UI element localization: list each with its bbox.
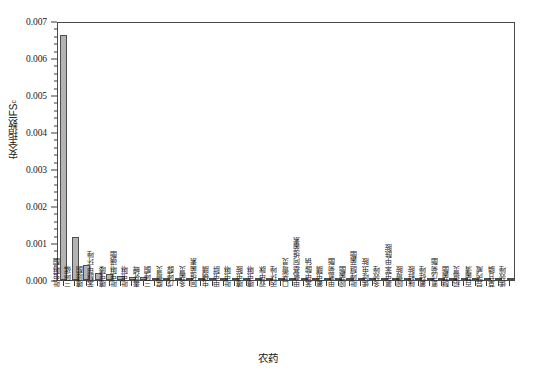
x-tick-label: 噻虫啉 <box>247 265 257 287</box>
x-tick-label: 虫螨腈 <box>202 265 212 287</box>
x-tick-label: 甲氨基阿维菌素 <box>293 237 303 287</box>
x-tick-label: 吡虫啉酮 <box>53 258 63 287</box>
x-tick-label: 多菌灵 <box>179 265 189 287</box>
bars-layer <box>58 23 514 280</box>
x-tick-label: 苯醚甲环唑 <box>87 251 97 287</box>
x-tick-label: 口恶霉灵 <box>282 258 292 287</box>
x-tick-label: 双甲脒 <box>259 265 269 287</box>
y-tick-label: 0.000 <box>26 276 47 286</box>
y-tick-label: 0.003 <box>26 165 47 175</box>
x-tick-label: 甲虫肼 <box>213 265 223 287</box>
x-tick-label: 腐霉灵 <box>156 265 166 287</box>
x-tick-label: 吡虫啉 <box>121 265 131 287</box>
x-tick-label: 草甘膦 <box>488 265 498 287</box>
x-tick-mark <box>509 281 510 286</box>
x-tick-label: 吡唑醚菌酯 <box>350 251 360 287</box>
x-tick-label: 异丙威 <box>476 265 486 287</box>
x-tick-label: 稻瘟灵 <box>453 265 463 287</box>
x-tick-label: 烯效唑 <box>499 265 509 287</box>
x-tick-label: 氰戊菊酯 <box>431 258 441 287</box>
x-tick-label: 三唑磷 <box>64 265 74 287</box>
bar <box>60 35 67 280</box>
x-axis-title: 农药 <box>0 350 535 365</box>
plot-area <box>57 22 515 281</box>
x-tick-label: 嘧霉胺 <box>396 265 406 287</box>
x-tick-label: 阿维菌素 <box>190 258 200 287</box>
x-tick-label: 烯啶虫胺 <box>362 258 372 287</box>
y-tick-label: 0.007 <box>26 17 47 27</box>
x-tick-label: 氟虫腈 <box>316 265 326 287</box>
x-tick-label: 百菌清 <box>465 265 475 287</box>
x-tick-label: 苯甲酸钠 <box>305 258 315 287</box>
x-tick-label: 吡虫啉 <box>224 265 234 287</box>
x-tick-label: 三唑酮 <box>144 265 154 287</box>
y-tick-label: 0.002 <box>26 202 47 212</box>
x-tick-label: 氯虫苯甲酰胺 <box>385 244 395 287</box>
y-tick-label: 0.001 <box>26 239 47 249</box>
x-tick-label: 噻虫胺 <box>236 265 246 287</box>
x-tick-label: 甲氰菊酯 <box>328 258 338 287</box>
y-tick-label: 0.005 <box>26 91 47 101</box>
y-tick-label: 0.004 <box>26 128 47 138</box>
x-tick-label: 噻虫嗪 <box>99 265 109 287</box>
x-tick-label: 毒死蜱 <box>133 265 143 287</box>
y-tick-label: 0.006 <box>26 54 47 64</box>
x-tick-label: 醚菌酯 <box>442 265 452 287</box>
x-tick-label: 咪鲜胺 <box>408 265 418 287</box>
x-tick-label: 戊唑醇 <box>167 265 177 287</box>
y-axis: 0.0000.0010.0020.0030.0040.0050.0060.007 <box>0 0 57 282</box>
x-tick-label: 丙环唑 <box>270 265 280 287</box>
x-tick-label: 嘧菌酯 <box>339 265 349 287</box>
x-tick-label: 吡虫啉磺酯 <box>110 251 120 287</box>
x-tick-label: 噻嗪酮 <box>76 265 86 287</box>
x-axis-tick-labels: 吡虫啉酮三唑磷噻嗪酮苯醚甲环唑噻虫嗪吡虫啉磺酯吡虫啉毒死蜱三唑酮腐霉灵戊唑醇多菌… <box>57 287 515 349</box>
x-tick-label: 氟硅唑 <box>419 265 429 287</box>
chart-figure: 安全指数IFSc 0.0000.0010.0020.0030.0040.0050… <box>0 0 535 370</box>
x-tick-label: 多效唑 <box>373 265 383 287</box>
